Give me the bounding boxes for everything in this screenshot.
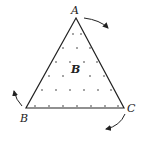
vertex-b-label: B — [19, 112, 28, 125]
field-label: B — [70, 63, 80, 76]
triangle-diagram: A B C B — [0, 0, 142, 143]
arrow-near-a-icon — [84, 18, 108, 28]
rotation-arrows — [14, 18, 125, 129]
arrow-near-b-icon — [14, 91, 22, 106]
vertex-a-label: A — [70, 4, 79, 17]
arrow-near-c-icon — [106, 114, 125, 129]
vertex-c-label: C — [127, 102, 136, 115]
